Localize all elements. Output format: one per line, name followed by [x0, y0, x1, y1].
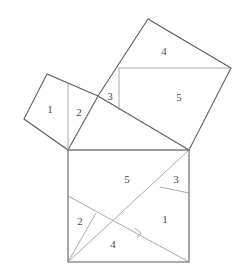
piece-label-3-hyp: 3 — [107, 90, 113, 102]
piece-label-1-bottom: 1 — [162, 213, 168, 225]
piece-label-5-hyp: 5 — [176, 91, 182, 103]
piece-label-4-hyp: 4 — [161, 45, 167, 57]
central-right-triangle — [68, 96, 189, 150]
piece-label-5-bottom: 5 — [124, 173, 130, 185]
piece-label-4-bottom: 4 — [110, 238, 116, 250]
piece-label-3-bottom: 3 — [173, 173, 179, 185]
piece-label-2-bottom: 2 — [77, 215, 83, 227]
piece-label-2-left: 2 — [76, 106, 82, 118]
pythagorean-dissection-figure: Pythagorean theorem dissection proof Rig… — [0, 0, 251, 275]
square-on-short-leg — [24, 74, 98, 150]
piece-label-1-left: 1 — [47, 103, 53, 115]
pythagoras-diagram-svg: Pythagorean theorem dissection proof Rig… — [0, 0, 251, 275]
bottom-square-corner-cut — [160, 187, 189, 193]
square-on-hypotenuse — [98, 19, 231, 150]
